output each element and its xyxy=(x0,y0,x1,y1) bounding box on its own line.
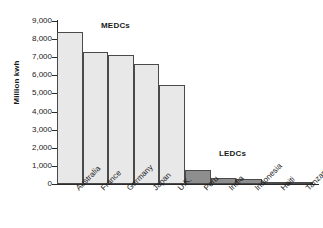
x-axis-tick-label: France xyxy=(99,186,105,192)
x-axis-tick-label: Tanzania xyxy=(304,186,310,192)
bars-layer xyxy=(57,21,313,184)
x-axis-tick-label: Australia xyxy=(74,186,80,192)
group-annotation-medcs: MEDCs xyxy=(101,21,130,30)
x-axis-tick-label: Japan xyxy=(151,186,157,192)
x-axis-tick-label: Germany xyxy=(125,186,131,192)
x-axis-tick-labels: AustraliaFranceGermanyJapanU.K.PeruIndia… xyxy=(57,186,319,228)
bar-germany xyxy=(108,55,134,184)
x-axis-tick-label: India xyxy=(227,186,233,192)
x-axis-tick-label: Peru xyxy=(202,186,208,192)
bar-australia xyxy=(57,32,83,184)
bar-chart: Million kwh 9,0008,0007,0006,0005,0004,0… xyxy=(0,0,323,228)
group-annotation-ledcs: LEDCs xyxy=(219,149,246,158)
x-axis-tick-label: Indonesia xyxy=(253,186,259,192)
x-axis-tick-label: U.K. xyxy=(176,186,182,192)
x-axis-tick-label: Haiti xyxy=(279,186,285,192)
bar-u-k xyxy=(159,85,185,184)
